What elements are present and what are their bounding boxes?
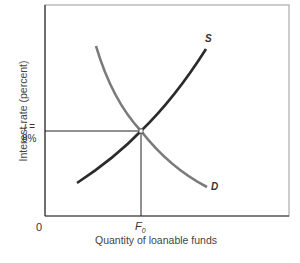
quantity-equilibrium-label: F0	[135, 220, 146, 234]
loanable-funds-diagram	[0, 0, 300, 263]
rate-value: 8%	[22, 133, 36, 144]
demand-curve-label: D	[211, 181, 218, 192]
rate-symbol: i =	[24, 121, 35, 132]
origin-label: 0	[36, 221, 42, 233]
y-axis-label: Interest rate (percent)	[17, 36, 29, 186]
plot-frame	[45, 5, 289, 216]
demand-curve	[96, 46, 207, 187]
supply-curve-label: S	[205, 33, 212, 44]
quantity-symbol: F	[135, 220, 142, 232]
x-axis-label: Quantity of loanable funds	[95, 234, 217, 246]
equilibrium-point	[139, 129, 143, 133]
